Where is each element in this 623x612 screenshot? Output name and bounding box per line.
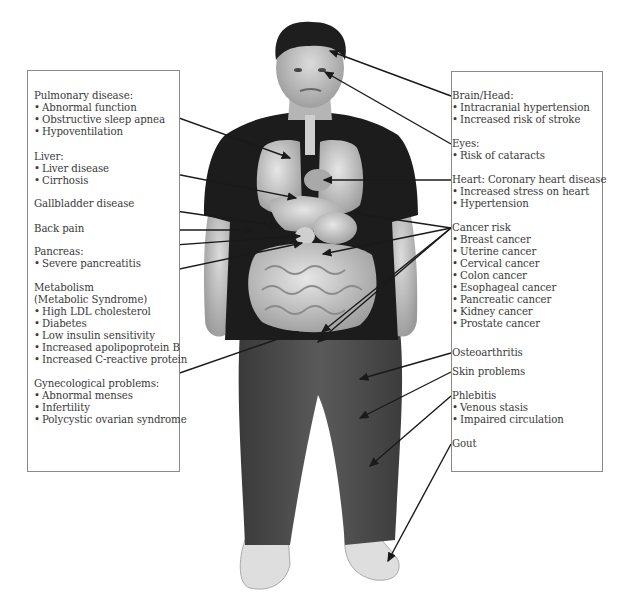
label-gynecological: Gynecological problems: Abnormal menses … — [34, 378, 187, 426]
label-gout: Gout — [452, 438, 477, 450]
label-heart: Heart: Coronary heart disease Increased … — [452, 174, 606, 210]
label-cancer-risk: Cancer risk Breast cancer Uterine cancer… — [452, 222, 556, 330]
pants — [239, 330, 402, 545]
label-metabolism: Metabolism (Metabolic Syndrome) High LDL… — [34, 282, 187, 366]
label-phlebitis: Phlebitis Venous stasis Impaired circula… — [452, 390, 564, 426]
label-skin-problems: Skin problems — [452, 366, 525, 378]
label-gallbladder: Gallbladder disease — [34, 198, 134, 210]
label-pulmonary: Pulmonary disease: Abnormal function Obs… — [34, 90, 165, 138]
trachea — [305, 115, 315, 155]
label-pancreas: Pancreas: Severe pancreatitis — [34, 246, 141, 270]
label-back-pain: Back pain — [34, 223, 84, 235]
label-osteoarthritis: Osteoarthritis — [452, 347, 523, 359]
label-liver: Liver: Liver disease Cirrhosis — [34, 151, 109, 187]
arrow-brain — [330, 51, 451, 96]
label-brain-head: Brain/Head: Intracranial hypertension In… — [452, 90, 590, 126]
stomach — [313, 212, 357, 244]
label-eyes: Eyes: Risk of cataracts — [452, 138, 545, 162]
